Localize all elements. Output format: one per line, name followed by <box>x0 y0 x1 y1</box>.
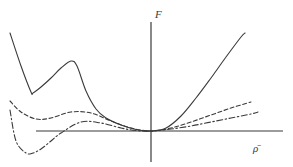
y-axis-label: F <box>154 8 162 20</box>
axes: F ρ̄ <box>36 8 283 162</box>
series-line-dash-dot <box>10 110 258 154</box>
x-axis-label: ρ̄ <box>252 142 261 154</box>
series-line-solid <box>10 33 245 131</box>
series-line-dashed <box>10 101 251 131</box>
series-group <box>10 33 258 154</box>
chart: F ρ̄ <box>0 0 293 167</box>
